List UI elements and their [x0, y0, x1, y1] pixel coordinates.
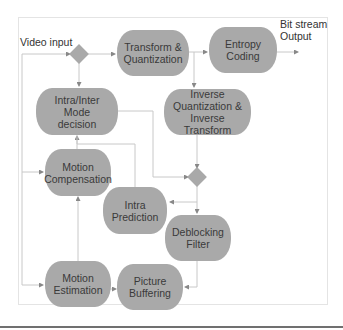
node-motion-estimation[interactable]: Motion Estimation — [45, 261, 111, 307]
bottom-divider — [0, 326, 343, 328]
node-intra-inter-mode-decision[interactable]: Intra/Inter Mode decision — [36, 88, 118, 135]
node-motion-compensation[interactable]: Motion Compensation — [45, 149, 111, 196]
bitstream-output-label-line2: Output — [280, 30, 312, 42]
node-deblocking-filter[interactable]: Deblocking Filter — [165, 215, 231, 261]
node-picture-buffering[interactable]: Picture Buffering — [117, 264, 183, 310]
bitstream-output-label-line1: Bit stream — [280, 18, 327, 30]
node-entropy-coding[interactable]: Entropy Coding — [209, 27, 277, 73]
node-inverse-quantization-transform[interactable]: Inverse Quantization & Inverse Transform — [164, 89, 251, 135]
node-transform-quantization[interactable]: Transform & Quantization — [117, 30, 189, 76]
node-intra-prediction[interactable]: Intra Prediction — [103, 187, 167, 234]
edge-deblocking-to-picture-buffer — [185, 260, 197, 287]
video-input-label: Video input — [20, 36, 72, 48]
